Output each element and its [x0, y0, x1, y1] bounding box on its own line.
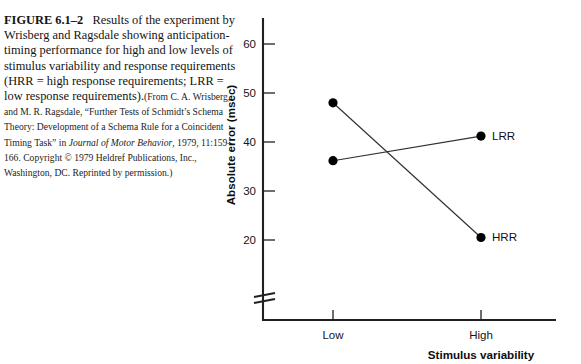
y-axis-title: Absolute error (msec)	[224, 85, 237, 206]
y-tick-label-40: 40	[243, 136, 256, 148]
data-point-hrr-low	[328, 98, 337, 107]
data-point-lrr-high	[476, 132, 485, 141]
y-tick-label-50: 50	[243, 87, 256, 99]
series-label-lrr: LRR	[492, 129, 515, 142]
y-axis-break-mark-upper	[254, 293, 275, 297]
x-axis-title: Stimulus variability	[428, 348, 535, 361]
series-line-lrr	[333, 136, 481, 161]
y-tick-label-20: 20	[243, 234, 256, 246]
y-tick-label-30: 30	[243, 185, 256, 197]
line-chart: 60 50 40 30 20 Low High Stimulus variabi…	[0, 0, 581, 364]
y-tick-label-60: 60	[243, 38, 256, 50]
data-point-hrr-high	[476, 233, 485, 242]
y-axis-break-mark-lower	[254, 299, 275, 303]
x-tick-label-high: High	[469, 329, 493, 341]
data-point-lrr-low	[328, 156, 337, 165]
x-tick-label-low: Low	[322, 329, 344, 341]
figure-plot-area: 60 50 40 30 20 Low High Stimulus variabi…	[0, 0, 581, 364]
series-line-hrr	[333, 103, 481, 238]
series-label-hrr: HRR	[492, 230, 517, 243]
